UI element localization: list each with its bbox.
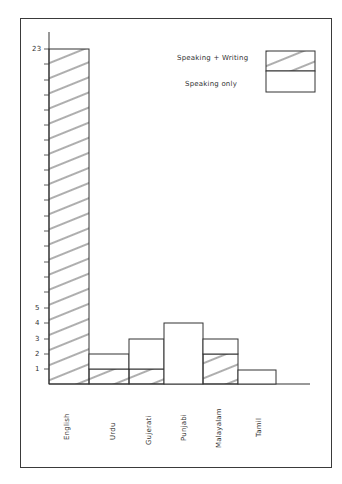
y-label-5: 5 (35, 304, 40, 312)
legend: Speaking + Writing Speaking only (177, 51, 315, 92)
y-label-1: 1 (35, 365, 40, 373)
x-label-urdu: Urdu (109, 422, 117, 440)
x-label-english: English (63, 413, 71, 440)
bar-english-speaking-writing (49, 49, 89, 384)
bar-malayalam-speaking-writing (203, 354, 238, 384)
x-label-malayalam: Malayalam (215, 408, 223, 448)
bar-gujerati-speaking-writing (129, 369, 164, 384)
legend-label-speaking-only: Speaking only (185, 80, 237, 88)
y-label-3: 3 (35, 335, 40, 343)
y-label-2: 2 (35, 350, 40, 358)
legend-label-speaking-writing: Speaking + Writing (177, 54, 248, 62)
legend-swatch-hatched (266, 51, 315, 71)
bar-punjabi-speaking-only (164, 323, 203, 384)
bar-urdu-speaking-writing (89, 369, 129, 384)
y-label-23: 23 (32, 45, 41, 53)
y-label-4: 4 (35, 319, 40, 327)
bar-gujerati-speaking-only (129, 339, 164, 369)
bar-malayalam-speaking-only (203, 339, 238, 354)
bar-urdu-speaking-only (89, 354, 129, 369)
bar-tamil-speaking-only (238, 370, 276, 384)
y-ticks (44, 49, 49, 369)
x-label-punjabi: Punjabi (180, 414, 188, 441)
x-label-tamil: Tamil (255, 418, 263, 438)
legend-swatch-plain (266, 71, 315, 92)
x-label-gujerati: Gujerati (145, 415, 153, 445)
bar-chart: 1 2 3 4 5 23 Speaking + Writing Speaking… (0, 0, 342, 484)
